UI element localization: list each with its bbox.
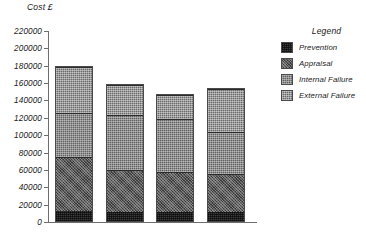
bar-segment (56, 67, 92, 112)
y-axis-tick (44, 187, 48, 188)
y-axis-tick (44, 153, 48, 154)
legend-item-label: Internal Failure (299, 75, 353, 84)
bar-jul-sep[interactable] (156, 94, 194, 222)
legend-swatch-icon (281, 58, 293, 69)
plot-area: 0200004000060000800001000001200001400001… (48, 31, 250, 222)
bar-segment (56, 157, 92, 212)
y-axis-tick-label: 220000 (14, 27, 42, 36)
bar-apr-jun[interactable] (106, 84, 144, 222)
y-axis-tick-label: 80000 (19, 148, 42, 157)
chart-legend: Legend PreventionAppraisalInternal Failu… (281, 26, 366, 106)
legend-item-label: Appraisal (299, 59, 332, 68)
y-axis-tick-label: 200000 (14, 44, 42, 53)
y-axis-tick (44, 31, 48, 32)
bar-segment (107, 85, 143, 115)
bar-segment (107, 170, 143, 213)
bar-segment (208, 89, 244, 132)
bar-segment (208, 132, 244, 174)
y-axis-tick-label: 40000 (19, 183, 42, 192)
bar-jan-mar[interactable] (55, 66, 93, 222)
y-axis-tick (44, 66, 48, 67)
legend-item[interactable]: Internal Failure (281, 74, 366, 85)
legend-swatch-icon (281, 90, 293, 101)
legend-items: PreventionAppraisalInternal FailureExter… (281, 42, 366, 101)
bar-segment (56, 113, 92, 157)
legend-item[interactable]: Prevention (281, 42, 366, 53)
y-axis-title: Cost £ (27, 2, 53, 12)
bar-segment (56, 211, 92, 221)
bar-segment (107, 115, 143, 170)
x-axis-line (48, 222, 257, 223)
y-axis-tick (44, 48, 48, 49)
bar-segment (157, 119, 193, 172)
legend-title: Legend (287, 26, 366, 36)
y-axis-tick (44, 83, 48, 84)
y-axis-tick-label: 120000 (14, 113, 42, 122)
y-axis-tick-label: 0 (37, 218, 42, 227)
bar-segment (157, 212, 193, 221)
legend-item-label: External Failure (299, 91, 355, 100)
bar-oct-dec[interactable] (207, 88, 245, 222)
bar-segment (157, 172, 193, 213)
bar-segment (107, 212, 143, 221)
bar-segment (208, 174, 244, 212)
y-axis-tick (44, 135, 48, 136)
y-axis-tick (44, 118, 48, 119)
legend-item-label: Prevention (299, 43, 337, 52)
y-axis-tick (44, 100, 48, 101)
y-axis-tick (44, 222, 48, 223)
y-axis-tick (44, 205, 48, 206)
legend-swatch-icon (281, 42, 293, 53)
y-axis-tick (44, 170, 48, 171)
bar-segment (208, 212, 244, 221)
y-axis-tick-label: 20000 (19, 200, 42, 209)
y-axis-tick-label: 160000 (14, 79, 42, 88)
y-axis-tick-label: 140000 (14, 96, 42, 105)
legend-swatch-icon (281, 74, 293, 85)
legend-item[interactable]: Appraisal (281, 58, 366, 69)
y-axis-tick-label: 100000 (14, 131, 42, 140)
legend-item[interactable]: External Failure (281, 90, 366, 101)
y-axis-tick-label: 180000 (14, 61, 42, 70)
y-axis-tick-label: 60000 (19, 165, 42, 174)
bar-segment (157, 95, 193, 118)
bar-chart: Cost £ 020000400006000080000100000120000… (0, 0, 366, 252)
